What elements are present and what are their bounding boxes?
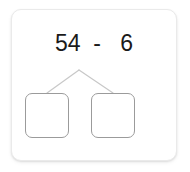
right-answer-box[interactable] bbox=[91, 93, 135, 138]
bond-branch-left-line bbox=[47, 70, 79, 93]
bond-branch-right-line bbox=[79, 70, 113, 93]
worksheet-card: 54 - 6 bbox=[11, 9, 177, 161]
math-expression: 54 - 6 bbox=[12, 31, 176, 55]
left-answer-box[interactable] bbox=[25, 93, 69, 138]
number-bond-connector bbox=[12, 55, 178, 95]
